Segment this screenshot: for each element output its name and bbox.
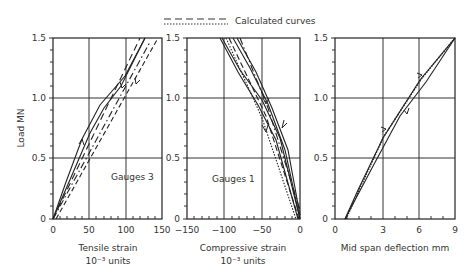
legend-label: Calculated curves xyxy=(235,16,316,26)
x-tick: −150 xyxy=(175,225,200,235)
curves xyxy=(53,38,158,219)
x-tick: 3 xyxy=(380,225,386,235)
chart-figure: Calculated curves 1.5 1.0 0.5 0 Load MN xyxy=(0,0,470,279)
y-axis-label: Load MN xyxy=(16,109,26,148)
panel-annotation: Gauges 1 xyxy=(212,174,255,184)
y-tick: 1.5 xyxy=(32,33,46,43)
plot-frame xyxy=(187,38,300,219)
y-tick: 1.0 xyxy=(32,93,47,103)
x-axis-units: 10⁻³ units xyxy=(86,256,131,266)
x-tick: 6 xyxy=(416,225,422,235)
y-tick: 1.5 xyxy=(314,33,328,43)
curves xyxy=(220,38,300,219)
x-tick: 150 xyxy=(153,225,170,235)
y-tick: 1.0 xyxy=(314,93,329,103)
x-tick: 0 xyxy=(50,225,56,235)
y-tick: 0 xyxy=(174,214,180,224)
y-tick: 0 xyxy=(322,214,328,224)
y-tick: 0.5 xyxy=(314,153,328,163)
x-axis-units: 10⁻³ units xyxy=(221,256,266,266)
legend: Calculated curves xyxy=(164,16,316,26)
y-tick: 0.5 xyxy=(166,153,180,163)
x-tick: 0 xyxy=(332,225,338,235)
x-axis-label: Tensile strain xyxy=(78,243,138,253)
curves xyxy=(345,38,455,219)
y-tick: 0.5 xyxy=(32,153,46,163)
x-tick: 100 xyxy=(117,225,134,235)
y-tick: 1.0 xyxy=(166,93,181,103)
panel-tensile: 1.5 1.0 0.5 0 Load MN 0 50 100 150 Tensi… xyxy=(16,33,171,266)
x-tick: −100 xyxy=(212,225,237,235)
panel-deflection: 1.5 1.0 0.5 0 0 3 6 9 Mid span deflectio… xyxy=(314,33,458,253)
y-tick: 0 xyxy=(40,214,46,224)
x-axis-label: Mid span deflection mm xyxy=(341,243,449,253)
x-tick: 50 xyxy=(83,225,95,235)
panel-annotation: Gauges 3 xyxy=(111,172,154,182)
x-tick: −50 xyxy=(253,225,272,235)
panel-compressive: 1.5 1.0 0.5 0 −150 −100 −50 0 Compressiv… xyxy=(166,33,303,266)
x-tick: 0 xyxy=(297,225,303,235)
x-tick: 9 xyxy=(452,225,458,235)
x-axis-label: Compressive strain xyxy=(200,243,287,253)
y-tick: 1.5 xyxy=(166,33,180,43)
